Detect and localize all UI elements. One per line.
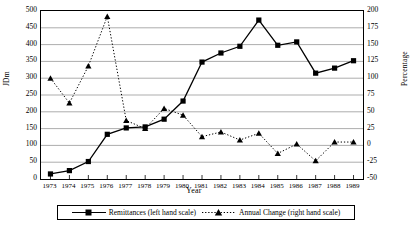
y-tick-left-300: 300 [9,73,37,81]
data-point-marker [86,159,91,164]
chart-legend: Remittances (left hand scale) Annual Cha… [57,205,355,220]
y-tick-right-200: 200 [367,6,395,14]
data-point-marker [199,134,205,140]
data-point-marker [180,98,185,103]
y-tick-left-350: 350 [9,56,37,64]
y-tick-right-0: 0 [367,140,395,148]
y-tick-right-50: 50 [367,107,395,115]
legend-key-square-solid [72,208,106,217]
series-line-1 [50,16,353,160]
y-axis-right-title: Percentage [400,51,409,86]
y-tick-left-250: 250 [9,90,37,98]
legend-key-triangle-dotted [202,208,236,217]
data-point-marker [199,59,204,64]
legend-item-annual-change: Annual Change (right hand scale) [202,208,340,217]
data-point-marker [105,132,110,137]
series-canvas [41,11,363,179]
data-point-marker [351,58,356,63]
data-point-marker [313,158,319,164]
data-point-marker [256,130,262,136]
data-point-marker [313,71,318,76]
y-tick-right--50: -50 [367,174,395,182]
data-point-marker [294,141,300,147]
data-point-marker [275,43,280,48]
y-tick-right-150: 150 [367,40,395,48]
series-line-0 [50,20,353,174]
y-tick-left-400: 400 [9,40,37,48]
y-tick-left-500: 500 [9,6,37,14]
data-point-marker [85,63,91,69]
y-tick-left-50: 50 [9,157,37,165]
chart-figure: JDm Percentage Year 50045040035030025020… [0,0,412,226]
y-tick-right-25: 25 [367,124,395,132]
y-tick-left-200: 200 [9,107,37,115]
data-point-marker [123,118,129,124]
y-tick-left-100: 100 [9,140,37,148]
data-point-marker [67,168,72,173]
y-tick-left-450: 450 [9,23,37,31]
y-tick-left-150: 150 [9,124,37,132]
data-point-marker [256,17,261,22]
data-point-marker [161,105,167,111]
data-point-marker [48,171,53,176]
y-tick-right-100: 100 [367,73,395,81]
y-tick-right-75: 75 [367,90,395,98]
legend-label-remittances: Remittances (left hand scale) [109,208,196,217]
data-point-marker [104,13,110,19]
legend-label-annual-change: Annual Change (right hand scale) [239,208,340,217]
data-point-marker [294,39,299,44]
data-point-marker [124,125,129,130]
data-point-marker [218,50,223,55]
data-point-marker [66,100,72,106]
y-tick-right-175: 175 [367,23,395,31]
data-point-marker [237,44,242,49]
data-point-marker [237,137,243,143]
plot-area [40,10,364,180]
y-tick-left-0: 0 [9,174,37,182]
data-point-marker [331,139,337,145]
x-tick-1989: 1989 [340,182,366,190]
data-point-marker [218,129,224,135]
legend-item-remittances: Remittances (left hand scale) [72,208,196,217]
data-point-marker [332,66,337,71]
y-tick-right--25: -25 [367,157,395,165]
y-tick-right-125: 125 [367,56,395,64]
data-point-marker [162,117,167,122]
